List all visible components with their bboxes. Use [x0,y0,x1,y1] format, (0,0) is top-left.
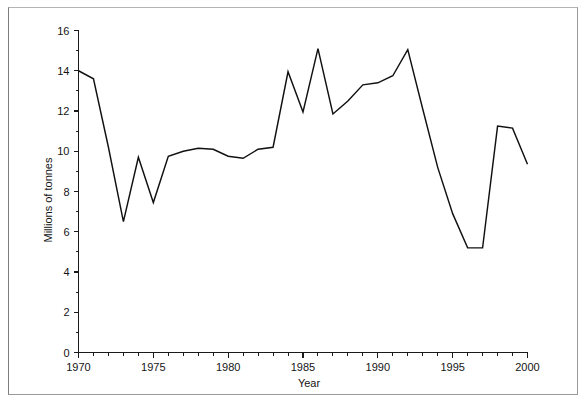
y-tick-label: 14 [57,65,69,77]
x-tick-label: 1975 [141,361,165,373]
y-tick-label: 12 [57,105,69,117]
x-tick-label: 1990 [366,361,390,373]
x-tick-label: 1985 [291,361,315,373]
y-tick-label: 0 [63,347,69,359]
y-tick-label: 16 [57,25,69,37]
data-series-line [79,49,528,248]
y-axis-ticks [74,31,79,353]
x-tick-label: 1995 [440,361,464,373]
y-axis-tick-labels: 0246810121416 [57,25,69,359]
x-tick-label: 1980 [216,361,240,373]
x-tick-label: 1970 [66,361,90,373]
y-tick-label: 6 [63,226,69,238]
y-axis-title: Millions of tonnes [42,157,54,242]
x-axis-tick-labels: 1970197519801985199019952000 [66,361,539,373]
x-tick-label: 2000 [515,361,539,373]
line-chart-plot: 0246810121416 19701975198019851990199520… [0,0,587,411]
y-tick-label: 10 [57,145,69,157]
chart-axes [79,31,528,353]
x-axis-ticks [79,353,528,358]
chart-figure: 0246810121416 19701975198019851990199520… [0,0,587,411]
y-tick-label: 4 [63,266,69,278]
y-tick-label: 8 [63,186,69,198]
x-axis-title: Year [298,377,321,389]
y-tick-label: 2 [63,306,69,318]
